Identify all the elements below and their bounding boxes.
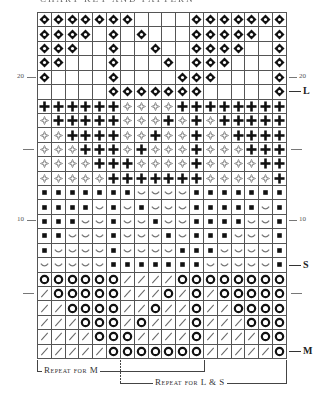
chart-cell <box>79 258 93 272</box>
bold-plus-icon <box>233 115 244 126</box>
chart-cell <box>52 244 66 258</box>
chart-cell <box>79 85 93 99</box>
diamond-ring-icon <box>205 57 216 68</box>
smile-curve-icon <box>67 245 78 256</box>
filled-square-icon <box>94 187 105 198</box>
smile-curve-icon <box>80 245 91 256</box>
open-diamond-icon <box>39 144 50 155</box>
bold-plus-icon <box>67 101 78 112</box>
diamond-ring-icon <box>246 29 257 40</box>
filled-square-icon <box>219 202 230 213</box>
ring-icon <box>260 303 271 314</box>
chart-cell <box>79 330 93 344</box>
chart-cell <box>107 287 121 301</box>
chart-cell <box>176 172 190 186</box>
chart-cell <box>218 273 232 287</box>
filled-square-icon <box>260 187 271 198</box>
open-diamond-icon <box>219 144 230 155</box>
chart-cell <box>204 345 218 359</box>
chart-cell <box>149 42 163 56</box>
diamond-ring-icon <box>191 43 202 54</box>
chart-cell <box>121 114 135 128</box>
chart-cell <box>245 13 259 27</box>
open-diamond-icon <box>39 173 50 184</box>
bold-plus-icon <box>246 115 257 126</box>
slash-icon <box>233 331 244 342</box>
chart-cell <box>218 229 232 243</box>
ring-icon <box>94 317 105 328</box>
chart-cell <box>149 215 163 229</box>
chart-cell <box>135 100 149 114</box>
chart-cell <box>38 301 52 315</box>
chart-cell <box>149 71 163 85</box>
open-diamond-icon <box>80 173 91 184</box>
ring-icon <box>150 346 161 357</box>
chart-cell <box>190 258 204 272</box>
filled-square-icon <box>67 202 78 213</box>
chart-cell <box>259 215 273 229</box>
chart-cell <box>204 301 218 315</box>
chart-cell <box>232 258 246 272</box>
slash-icon <box>219 317 230 328</box>
chart-cell <box>38 345 52 359</box>
ring-icon <box>67 274 78 285</box>
chart-cell <box>38 143 52 157</box>
chart-cell <box>107 128 121 142</box>
chart-cell <box>38 172 52 186</box>
chart-cell <box>218 301 232 315</box>
chart-cell <box>66 42 80 56</box>
chart-cell <box>66 200 80 214</box>
diamond-ring-icon <box>219 29 230 40</box>
bold-plus-icon <box>219 101 230 112</box>
slash-icon <box>233 346 244 357</box>
chart-cell <box>204 316 218 330</box>
filled-square-icon <box>246 187 257 198</box>
smile-curve-icon <box>260 245 271 256</box>
chart-cell <box>204 42 218 56</box>
chart-cell <box>93 143 107 157</box>
chart-cell <box>162 114 176 128</box>
slash-icon <box>205 317 216 328</box>
bold-plus-icon <box>80 144 91 155</box>
ring-icon <box>260 274 271 285</box>
chart-cell <box>93 42 107 56</box>
ring-icon <box>246 317 257 328</box>
chart-cell <box>190 56 204 70</box>
chart-cell <box>66 71 80 85</box>
slash-icon <box>122 288 133 299</box>
chart-cell <box>232 301 246 315</box>
bold-plus-icon <box>191 158 202 169</box>
chart-cell <box>121 128 135 142</box>
chart-cell <box>259 200 273 214</box>
chart-cell <box>259 345 273 359</box>
chart-cell <box>245 100 259 114</box>
chart-cell <box>176 316 190 330</box>
open-diamond-icon <box>233 173 244 184</box>
chart-cell <box>218 287 232 301</box>
bold-plus-icon <box>274 101 285 112</box>
open-diamond-icon <box>150 115 161 126</box>
ring-icon <box>80 317 91 328</box>
chart-cell <box>66 85 80 99</box>
chart-cell <box>190 273 204 287</box>
chart-cell <box>93 186 107 200</box>
repeat-ls-left-bracket <box>120 360 121 384</box>
chart-cell <box>107 301 121 315</box>
chart-cell <box>107 143 121 157</box>
bold-plus-icon <box>80 115 91 126</box>
bold-plus-icon <box>274 115 285 126</box>
chart-cell <box>93 100 107 114</box>
chart-cell <box>273 229 287 243</box>
open-diamond-icon <box>67 144 78 155</box>
chart-cell <box>107 42 121 56</box>
chart-cell <box>245 229 259 243</box>
filled-square-icon <box>191 216 202 227</box>
diamond-ring-icon <box>233 14 244 25</box>
chart-cell <box>176 157 190 171</box>
ring-icon <box>94 331 105 342</box>
chart-cell <box>273 85 287 99</box>
chart-cell <box>52 330 66 344</box>
bold-plus-icon <box>177 101 188 112</box>
slash-icon <box>205 331 216 342</box>
smile-curve-icon <box>94 202 105 213</box>
